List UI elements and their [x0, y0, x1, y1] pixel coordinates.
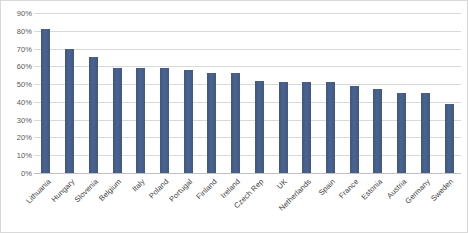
bar	[65, 49, 74, 173]
bar-slot	[129, 13, 153, 173]
bar-slot	[200, 13, 224, 173]
bar-slot	[390, 13, 414, 173]
x-axis-tick-label: Italy	[131, 177, 147, 193]
gridline	[34, 173, 461, 174]
bar-slot	[224, 13, 248, 173]
bar	[373, 89, 382, 173]
x-label-slot: Finland	[200, 175, 224, 233]
x-axis-tick-label: UK	[276, 177, 290, 191]
bar	[231, 73, 240, 173]
y-axis-tick-label: 30%	[17, 115, 32, 124]
x-label-slot: Portugal	[176, 175, 200, 233]
bar-slot	[271, 13, 295, 173]
bar-slot	[295, 13, 319, 173]
y-axis-tick-label: 10%	[17, 151, 32, 160]
bar-slot	[437, 13, 461, 173]
bar	[326, 82, 335, 173]
y-axis-tick-label: 20%	[17, 133, 32, 142]
bar-slot	[105, 13, 129, 173]
x-label-slot: Estonia	[366, 175, 390, 233]
bar	[255, 81, 264, 173]
bar-slot	[58, 13, 82, 173]
y-axis: 90%80%70%60%50%40%30%20%10%0%	[1, 13, 32, 173]
x-label-slot: Italy	[129, 175, 153, 233]
bar	[350, 86, 359, 173]
bar	[89, 57, 98, 173]
x-label-slot: Sweden	[437, 175, 461, 233]
bar-slot	[176, 13, 200, 173]
bar-slot	[319, 13, 343, 173]
x-label-slot: Czech Rep	[247, 175, 271, 233]
bar	[421, 93, 430, 173]
y-axis-tick-label: 90%	[17, 9, 32, 18]
bar-slot	[342, 13, 366, 173]
bar-slot	[81, 13, 105, 173]
y-axis-tick-label: 60%	[17, 62, 32, 71]
x-axis: LithuaniaHungarySloveniaBelgiumItalyPola…	[34, 175, 461, 233]
bar-slot	[153, 13, 177, 173]
bar	[445, 104, 454, 173]
bar-chart: 90%80%70%60%50%40%30%20%10%0% LithuaniaH…	[0, 0, 468, 233]
y-axis-tick-label: 70%	[17, 44, 32, 53]
x-label-slot: Poland	[153, 175, 177, 233]
x-label-slot: Netherlands	[295, 175, 319, 233]
bar	[397, 93, 406, 173]
x-label-slot: Germany	[414, 175, 438, 233]
bar	[41, 29, 50, 173]
bar-slot	[414, 13, 438, 173]
bar-slot	[34, 13, 58, 173]
x-axis-tick-label: Spain	[317, 177, 337, 197]
bar	[160, 68, 169, 173]
y-axis-tick-label: 0%	[21, 169, 32, 178]
bar-series	[34, 13, 461, 173]
x-axis-tick-label: Lithuania	[24, 177, 53, 206]
bar-slot	[366, 13, 390, 173]
y-axis-tick-label: 40%	[17, 97, 32, 106]
x-label-slot: France	[342, 175, 366, 233]
plot-area	[34, 13, 461, 173]
x-label-slot: Spain	[319, 175, 343, 233]
bar	[113, 68, 122, 173]
y-axis-tick-label: 50%	[17, 80, 32, 89]
bar	[207, 73, 216, 173]
bar-slot	[247, 13, 271, 173]
x-label-slot: Slovenia	[81, 175, 105, 233]
bar	[279, 82, 288, 173]
bar	[136, 68, 145, 173]
bar	[302, 82, 311, 173]
x-label-slot: Lithuania	[34, 175, 58, 233]
x-label-slot: Belgium	[105, 175, 129, 233]
y-axis-tick-label: 80%	[17, 26, 32, 35]
bar	[184, 70, 193, 173]
